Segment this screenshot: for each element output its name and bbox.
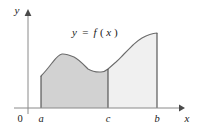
y-axis-label: y bbox=[14, 4, 20, 16]
function-label-open-paren: ( bbox=[100, 26, 104, 39]
function-label: y = f ( x ) bbox=[71, 26, 118, 39]
y-axis-arrowhead bbox=[25, 9, 32, 16]
x-axis-arrowhead bbox=[179, 105, 185, 112]
figure-container: y x 0 a c b y = f ( x ) bbox=[0, 0, 198, 139]
tick-label-a: a bbox=[38, 113, 43, 124]
region-c-to-b bbox=[108, 33, 157, 108]
tick-label-c: c bbox=[106, 113, 111, 124]
x-axis-label: x bbox=[184, 112, 190, 124]
function-label-arg: x bbox=[105, 26, 111, 38]
region-a-to-c bbox=[41, 54, 108, 108]
graph-canvas: y x 0 a c b y = f ( x ) bbox=[0, 0, 198, 139]
function-label-f: f bbox=[94, 26, 99, 38]
tick-label-b: b bbox=[154, 113, 159, 124]
function-label-y: y bbox=[71, 26, 77, 38]
function-label-text: y = f ( x ) bbox=[71, 26, 118, 39]
function-label-close-paren: ) bbox=[114, 26, 118, 39]
origin-label: 0 bbox=[17, 113, 22, 124]
function-label-equals: = bbox=[82, 26, 88, 38]
